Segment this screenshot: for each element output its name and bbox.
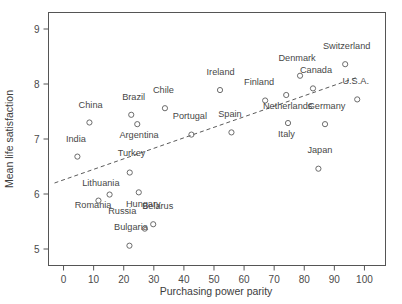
x-tick-label: 80 — [299, 274, 311, 285]
data-point: Portugal — [173, 111, 207, 137]
point-label: Ireland — [207, 67, 235, 77]
point-marker — [285, 120, 290, 125]
data-point: Switzerland — [323, 41, 371, 66]
trend-line-segment — [55, 77, 359, 183]
point-marker — [107, 192, 112, 197]
point-marker — [129, 112, 134, 117]
data-point: U.S.A. — [342, 76, 369, 102]
point-marker — [322, 122, 327, 127]
y-tick-label: 6 — [34, 189, 40, 200]
data-point: Turkey — [118, 148, 146, 175]
point-marker — [316, 166, 321, 171]
data-point: Italy — [278, 120, 295, 139]
x-axis-title: Purchasing power parity — [160, 285, 273, 297]
chart-canvas: 0102030405060708090100 56789 IndiaChinaL… — [0, 0, 402, 304]
data-point: Argentina — [119, 122, 159, 141]
scatter-plot-figure: 0102030405060708090100 56789 IndiaChinaL… — [0, 0, 402, 304]
point-label: Spain — [218, 109, 242, 119]
point-label: Germany — [308, 101, 346, 111]
data-point: Romania — [75, 192, 113, 210]
point-label: Romania — [75, 200, 113, 210]
point-marker — [355, 97, 360, 102]
point-marker — [127, 170, 132, 175]
y-axis-ticks: 56789 — [34, 24, 49, 255]
point-label: Finland — [244, 77, 274, 87]
point-label: Turkey — [118, 148, 146, 158]
y-tick-label: 9 — [34, 24, 40, 35]
data-point: Brazil — [122, 92, 145, 117]
point-label: Chile — [153, 85, 174, 95]
data-point: Netherlands — [263, 92, 313, 111]
point-marker — [75, 154, 80, 159]
point-marker — [310, 86, 315, 91]
point-label: Lithuania — [82, 178, 120, 188]
x-tick-label: 0 — [61, 274, 67, 285]
x-axis-ticks: 0102030405060708090100 — [61, 266, 373, 285]
point-marker — [136, 190, 141, 195]
point-marker — [87, 120, 92, 125]
point-marker — [284, 92, 289, 97]
x-tick-label: 100 — [356, 274, 373, 285]
data-point: Germany — [308, 101, 346, 127]
x-tick-label: 40 — [178, 274, 190, 285]
point-marker — [135, 122, 140, 127]
point-label: Portugal — [173, 111, 207, 121]
x-tick-label: 30 — [148, 274, 160, 285]
x-tick-label: 90 — [329, 274, 341, 285]
data-point: China — [79, 100, 104, 125]
point-label: China — [79, 100, 104, 110]
data-point: India — [66, 134, 87, 159]
point-label: Canada — [300, 65, 333, 75]
point-label: Italy — [278, 129, 295, 139]
y-tick-label: 8 — [34, 79, 40, 90]
point-marker — [217, 87, 222, 92]
y-tick-label: 7 — [34, 134, 40, 145]
x-tick-label: 20 — [118, 274, 130, 285]
point-label: Denmark — [278, 53, 316, 63]
point-label: Argentina — [119, 130, 159, 140]
point-marker — [229, 130, 234, 135]
data-point: Ireland — [207, 67, 235, 93]
point-marker — [151, 222, 156, 227]
point-marker — [189, 132, 194, 137]
point-label: Brazil — [122, 92, 145, 102]
data-point: Japan — [307, 145, 332, 172]
y-axis-title: Mean life satisfaction — [3, 90, 15, 188]
point-label: Switzerland — [323, 41, 371, 51]
data-point: Finland — [244, 77, 274, 103]
point-label: U.S.A. — [342, 76, 369, 86]
point-label: Netherlands — [263, 101, 313, 111]
trend-line — [55, 77, 359, 183]
point-label: Belarus — [142, 201, 174, 211]
data-points: IndiaChinaLithuaniaRomaniaTurkeyBulgaria… — [66, 41, 371, 248]
point-label: India — [66, 134, 87, 144]
x-tick-label: 70 — [269, 274, 281, 285]
x-tick-label: 50 — [208, 274, 220, 285]
x-tick-label: 60 — [239, 274, 251, 285]
point-label: Japan — [307, 145, 332, 155]
point-marker — [162, 106, 167, 111]
x-tick-label: 10 — [88, 274, 100, 285]
point-marker — [343, 62, 348, 67]
data-point: Chile — [153, 85, 174, 110]
y-tick-label: 5 — [34, 244, 40, 255]
point-label: Russia — [108, 206, 137, 216]
point-marker — [127, 243, 132, 248]
